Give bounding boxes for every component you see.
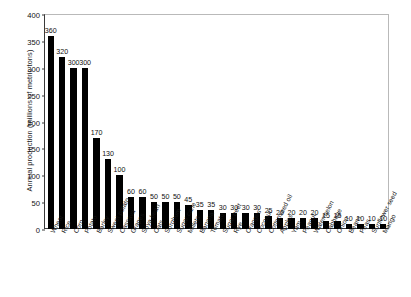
bar-sugar-cane: 50 xyxy=(174,14,180,229)
bar-value-label: 35 xyxy=(207,201,215,209)
bar-value-label: 20 xyxy=(299,209,307,217)
bar-cottonseed-oil: 25 xyxy=(265,14,271,229)
bar-value-label: 130 xyxy=(102,150,114,158)
bar-sweet-potato: 130 xyxy=(105,14,111,229)
bar-value-label: 170 xyxy=(91,129,103,137)
bar-value-label: 50 xyxy=(150,193,158,201)
y-tick-label: 300 xyxy=(27,64,42,73)
bar-cabbage: 15 xyxy=(323,14,329,229)
y-tick-label: 150 xyxy=(27,145,42,154)
bar-rye: 30 xyxy=(231,14,237,229)
bar-oranges: 30 xyxy=(242,14,248,229)
bar-value-label: 100 xyxy=(114,166,126,174)
y-tick-label: 350 xyxy=(27,37,42,46)
bar-value-label: 60 xyxy=(127,188,135,196)
bar-value-label: 50 xyxy=(161,193,169,201)
bar-beans: 10 xyxy=(346,14,352,229)
y-tick-350: 350 xyxy=(27,37,45,46)
bar-value-label: 300 xyxy=(68,59,80,67)
y-tick-300: 300 xyxy=(27,64,45,73)
bar-barley: 170 xyxy=(93,14,99,229)
bar-coconut: 30 xyxy=(254,14,260,229)
bar-rect xyxy=(70,68,76,229)
bar-millets: 45 xyxy=(185,14,191,229)
bar-value-label: 30 xyxy=(242,204,250,212)
bar-value-label: 50 xyxy=(173,193,181,201)
y-tick-400: 400 xyxy=(27,11,45,20)
bar-peas: 10 xyxy=(357,14,363,229)
bar-onion: 15 xyxy=(334,14,340,229)
y-tick-label: 200 xyxy=(27,118,42,127)
y-tick-label: 250 xyxy=(27,91,42,100)
y-tick-label: 100 xyxy=(27,172,42,181)
bar-soya-bean: 60 xyxy=(139,14,145,229)
bar-rect xyxy=(59,57,65,229)
y-tick-label: 50 xyxy=(32,199,42,208)
bar-value-label: 320 xyxy=(56,48,68,56)
bar-grapes: 60 xyxy=(128,14,134,229)
y-tick-50: 50 xyxy=(32,199,45,208)
bar-cassava: 100 xyxy=(116,14,122,229)
y-tick-200: 200 xyxy=(27,118,45,127)
bar-oats: 50 xyxy=(151,14,157,229)
bar-value-label: 300 xyxy=(79,59,91,67)
y-tick-100: 100 xyxy=(27,172,45,181)
bar-sunflower-seed: 10 xyxy=(369,14,375,229)
bar-value-label: 360 xyxy=(45,27,57,35)
y-tick-150: 150 xyxy=(27,145,45,154)
bar-apples: 20 xyxy=(277,14,283,229)
bar-peanut: 20 xyxy=(300,14,306,229)
y-tick-0: 0 xyxy=(36,226,45,235)
bar-banana: 35 xyxy=(197,14,203,229)
x-axis-labels: WheatRiceCornPotatoBarleySweet potatoCas… xyxy=(45,231,389,297)
bar-value-label: 35 xyxy=(196,201,204,209)
bar-wheat: 360 xyxy=(48,14,54,229)
bar-rice: 320 xyxy=(59,14,65,229)
bar-value-label: 60 xyxy=(139,188,147,196)
bar-chart: Annual production (millions of metric to… xyxy=(0,0,411,297)
bar-sorghum: 50 xyxy=(162,14,168,229)
y-tick-250: 250 xyxy=(27,91,45,100)
bar-rect xyxy=(48,36,54,230)
bar-mango: 10 xyxy=(380,14,386,229)
bar-tomato: 35 xyxy=(208,14,214,229)
bar-corn: 300 xyxy=(70,14,76,229)
bar-sugar-beet: 30 xyxy=(220,14,226,229)
bar-watermelon: 20 xyxy=(311,14,317,229)
bar-rect xyxy=(82,68,88,229)
bar-value-label: 30 xyxy=(219,204,227,212)
bars-container: 3603203003001701301006060505050453535303… xyxy=(45,14,389,229)
y-tick-label: 400 xyxy=(27,11,42,20)
bar-potato: 300 xyxy=(82,14,88,229)
